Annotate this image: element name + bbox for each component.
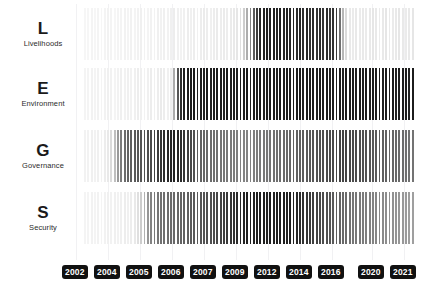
stripe bbox=[302, 130, 304, 182]
stripe bbox=[114, 192, 116, 244]
year-badge-2006[interactable]: 2006 bbox=[158, 265, 184, 279]
stripe bbox=[379, 130, 381, 182]
stripe bbox=[200, 130, 202, 182]
stripe bbox=[177, 8, 179, 60]
stripe bbox=[206, 68, 208, 120]
stripe bbox=[385, 130, 387, 182]
stripe bbox=[266, 68, 268, 120]
stripe bbox=[107, 8, 109, 60]
stripe bbox=[263, 192, 265, 244]
stripe bbox=[279, 192, 281, 244]
stripe bbox=[163, 8, 165, 60]
stripe bbox=[266, 130, 268, 182]
stripe bbox=[110, 130, 112, 182]
stripe bbox=[296, 8, 298, 60]
year-badge-2021[interactable]: 2021 bbox=[390, 265, 416, 279]
year-badge-2002[interactable]: 2002 bbox=[62, 265, 88, 279]
stripe bbox=[216, 68, 218, 120]
stripe bbox=[220, 8, 222, 60]
stripe bbox=[250, 192, 252, 244]
stripe bbox=[187, 68, 189, 120]
stripe bbox=[223, 8, 225, 60]
stripe bbox=[240, 192, 242, 244]
stripe bbox=[117, 68, 119, 120]
stripe bbox=[147, 192, 149, 244]
stripe bbox=[276, 192, 278, 244]
stripe bbox=[154, 8, 156, 60]
stripe bbox=[213, 68, 215, 120]
row-label-livelihoods: L Livelihoods bbox=[8, 8, 78, 60]
stripe bbox=[316, 192, 318, 244]
stripe bbox=[375, 130, 377, 182]
stripe bbox=[283, 130, 285, 182]
stripe bbox=[134, 130, 136, 182]
stripe bbox=[273, 130, 275, 182]
stripe bbox=[127, 68, 129, 120]
row-name: Security bbox=[29, 222, 57, 233]
year-badge-2004[interactable]: 2004 bbox=[94, 265, 120, 279]
stripe bbox=[213, 192, 215, 244]
stripe bbox=[210, 8, 212, 60]
stripe bbox=[134, 8, 136, 60]
stripe bbox=[84, 8, 86, 60]
stripe bbox=[243, 68, 245, 120]
stripe bbox=[94, 68, 96, 120]
stripe bbox=[120, 8, 122, 60]
stripe bbox=[398, 68, 400, 120]
stripe bbox=[160, 192, 162, 244]
year-badge-2020[interactable]: 2020 bbox=[358, 265, 384, 279]
stripe bbox=[306, 68, 308, 120]
stripe bbox=[203, 130, 205, 182]
stripe bbox=[124, 68, 126, 120]
stripe bbox=[259, 68, 261, 120]
stripe bbox=[369, 8, 371, 60]
stripe bbox=[137, 68, 139, 120]
stripe bbox=[322, 8, 324, 60]
stripe bbox=[180, 8, 182, 60]
stripe bbox=[408, 68, 410, 120]
stripe bbox=[269, 8, 271, 60]
stripe bbox=[329, 130, 331, 182]
stripe bbox=[104, 192, 106, 244]
stripe bbox=[355, 68, 357, 120]
stripe bbox=[253, 8, 255, 60]
stripe bbox=[359, 8, 361, 60]
stripe bbox=[379, 192, 381, 244]
stripe bbox=[203, 192, 205, 244]
stripe bbox=[349, 8, 351, 60]
stripe bbox=[302, 8, 304, 60]
stripe-plot-security bbox=[84, 192, 415, 244]
year-badge-2016[interactable]: 2016 bbox=[318, 265, 344, 279]
stripe bbox=[392, 130, 394, 182]
stripe bbox=[382, 8, 384, 60]
stripe bbox=[269, 68, 271, 120]
stripe bbox=[269, 192, 271, 244]
stripe bbox=[342, 130, 344, 182]
stripe bbox=[382, 68, 384, 120]
stripe bbox=[154, 130, 156, 182]
stripe bbox=[177, 130, 179, 182]
year-badge-2009[interactable]: 2009 bbox=[222, 265, 248, 279]
stripe bbox=[349, 192, 351, 244]
stripe bbox=[359, 130, 361, 182]
stripe bbox=[339, 68, 341, 120]
year-badge-2014[interactable]: 2014 bbox=[286, 265, 312, 279]
row-letter: G bbox=[36, 141, 49, 160]
stripe bbox=[157, 192, 159, 244]
year-badge-2007[interactable]: 2007 bbox=[190, 265, 216, 279]
stripe bbox=[170, 130, 172, 182]
stripe bbox=[160, 68, 162, 120]
year-badge-2012[interactable]: 2012 bbox=[254, 265, 280, 279]
row-letter: E bbox=[37, 79, 49, 98]
stripe bbox=[253, 130, 255, 182]
stripe bbox=[97, 192, 99, 244]
stripe bbox=[402, 130, 404, 182]
year-badge-2005[interactable]: 2005 bbox=[126, 265, 152, 279]
stripe bbox=[230, 8, 232, 60]
stripe bbox=[170, 192, 172, 244]
stripe bbox=[312, 192, 314, 244]
stripe bbox=[352, 130, 354, 182]
stripe bbox=[329, 8, 331, 60]
row-name: Environment bbox=[21, 98, 64, 109]
stripe bbox=[279, 130, 281, 182]
